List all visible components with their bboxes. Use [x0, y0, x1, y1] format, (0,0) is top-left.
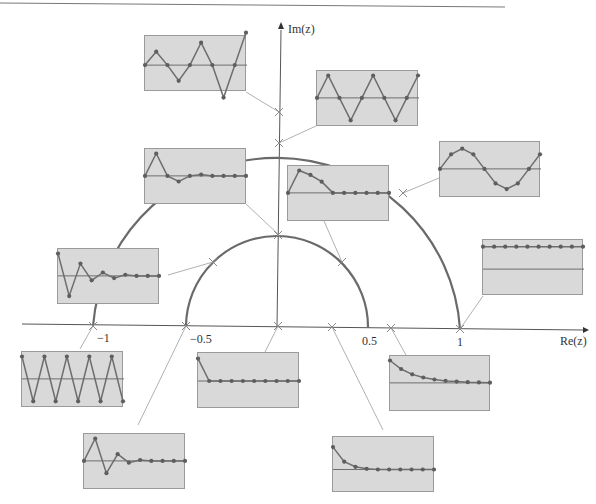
sample-dot-icon [331, 191, 335, 195]
sample-dot-icon [154, 50, 158, 54]
sample-dot-icon [514, 245, 518, 249]
sample-dot-icon [218, 379, 222, 383]
sample-dot-icon [188, 174, 192, 178]
sample-dot-icon [449, 152, 453, 156]
sample-dot-icon [90, 278, 94, 282]
sample-dot-icon [416, 73, 420, 77]
sample-dot-icon [157, 274, 161, 278]
sample-dot-icon [443, 379, 447, 383]
sample-dot-icon [149, 459, 153, 463]
sample-dot-icon [342, 191, 346, 195]
pole-marker-icon [275, 108, 283, 116]
sample-dot-icon [320, 180, 324, 184]
sample-dot-icon [536, 245, 540, 249]
sample-dot-icon [134, 274, 138, 278]
imag-axis-arrow-icon [278, 22, 284, 29]
sample-dot-icon [481, 245, 485, 249]
sample-dot-icon [364, 191, 368, 195]
sample-dot-icon [432, 467, 436, 471]
sample-dot-icon [207, 379, 211, 383]
sample-dot-icon [387, 467, 391, 471]
sample-dot-icon [78, 261, 82, 265]
sample-dot-icon [221, 174, 225, 178]
sample-dot-icon [438, 167, 442, 171]
impulse-response-plot [198, 353, 300, 409]
impulse-response-plot [333, 437, 435, 493]
sample-dot-icon [315, 96, 319, 100]
sample-dot-icon [210, 174, 214, 178]
sample-dot-icon [371, 73, 375, 77]
real-axis-arrow-icon [583, 327, 589, 333]
inset-damped-oscillation-135deg-half [57, 248, 159, 304]
tick-label-minus0.5: −0.5 [190, 332, 212, 347]
sample-dot-icon [410, 372, 414, 376]
sample-dot-icon [409, 467, 413, 471]
sample-dot-icon [365, 467, 369, 471]
sample-dot-icon [460, 147, 464, 151]
inset-alternating-sign [21, 351, 123, 407]
sample-dot-icon [188, 63, 192, 67]
inset-sustained-oscillation-period4 [316, 70, 418, 126]
sample-dot-icon [382, 96, 386, 100]
inset-impulse-at-origin [197, 352, 299, 408]
sample-dot-icon [527, 167, 531, 171]
impulse-response-plot [288, 166, 390, 222]
sample-dot-icon [274, 379, 278, 383]
sample-dot-icon [297, 379, 301, 383]
sample-dot-icon [337, 96, 341, 100]
response-curve [390, 361, 490, 383]
top-rule [0, 3, 505, 7]
sample-dot-icon [244, 31, 248, 35]
inset-fast-exponential-decay [332, 436, 434, 492]
sample-dot-icon [241, 379, 245, 383]
inset-damped-decay-45deg-half [287, 165, 389, 221]
sample-dot-icon [54, 399, 58, 403]
sample-dot-icon [297, 168, 301, 172]
inset-slow-exponential-decay [389, 355, 490, 411]
sample-dot-icon [82, 459, 86, 463]
sample-dot-icon [455, 379, 459, 383]
imag-axis-label: Im(z) [288, 22, 315, 37]
sample-dot-icon [67, 294, 71, 298]
inset-constant-step [482, 239, 583, 295]
sample-dot-icon [154, 151, 158, 155]
inset-growing-oscillation [144, 35, 246, 91]
sample-dot-icon [56, 251, 60, 255]
sample-dot-icon [376, 191, 380, 195]
sample-dot-icon [210, 63, 214, 67]
sample-dot-icon [286, 191, 290, 195]
sample-dot-icon [221, 96, 225, 100]
sample-dot-icon [570, 245, 574, 249]
sample-dot-icon [110, 354, 114, 358]
sample-dot-icon [20, 354, 24, 358]
sample-dot-icon [42, 354, 46, 358]
sample-dot-icon [505, 187, 509, 191]
sample-dot-icon [199, 172, 203, 176]
sample-dot-icon [138, 458, 142, 462]
sample-dot-icon [516, 181, 520, 185]
pole-marker-icon [274, 322, 282, 330]
impulse-response-plot [440, 142, 541, 198]
sample-dot-icon [503, 245, 507, 249]
impulse-response-plot [145, 149, 247, 205]
sample-dot-icon [326, 73, 330, 77]
sample-dot-icon [127, 461, 131, 465]
sample-dot-icon [398, 467, 402, 471]
tick-label-0.5: 0.5 [362, 334, 377, 349]
sample-dot-icon [393, 118, 397, 122]
sample-dot-icon [252, 379, 256, 383]
sample-dot-icon [112, 276, 116, 280]
sample-dot-icon [31, 399, 35, 403]
sample-dot-icon [538, 152, 542, 156]
sample-dot-icon [196, 357, 200, 361]
sample-dot-icon [349, 118, 353, 122]
pole-marker-icon [399, 189, 407, 197]
sample-dot-icon [421, 467, 425, 471]
sample-dot-icon [432, 377, 436, 381]
sample-dot-icon [230, 379, 234, 383]
sample-dot-icon [199, 41, 203, 45]
sample-dot-icon [376, 467, 380, 471]
impulse-response-plot [22, 352, 124, 408]
sample-dot-icon [399, 367, 403, 371]
inset-sinusoid-unit-circle [439, 141, 540, 197]
